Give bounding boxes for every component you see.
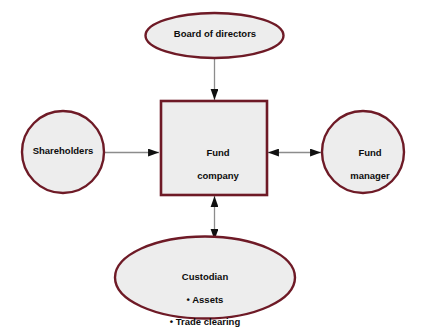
node-fund-manager[interactable] (322, 111, 404, 193)
diagram-canvas (0, 0, 427, 334)
node-board-of-directors[interactable] (146, 13, 284, 58)
node-layer (22, 13, 404, 319)
fund-structure-diagram: Board of directors Shareholders Fund com… (0, 0, 427, 334)
node-shareholders[interactable] (22, 111, 104, 193)
node-fund-company[interactable] (161, 101, 267, 195)
node-custodian[interactable] (115, 237, 295, 319)
